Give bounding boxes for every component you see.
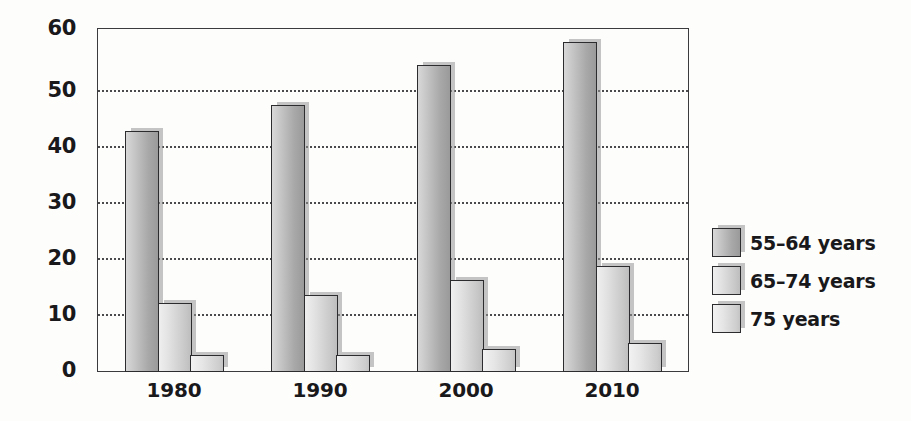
bar-2010-55-64	[563, 42, 597, 372]
legend-swatch-65-74-icon	[712, 266, 741, 295]
legend-item-75: 75 years	[712, 304, 876, 333]
legend-label-65-74: 65–74 years	[750, 270, 876, 292]
bar-2000-75	[482, 349, 516, 372]
bar-group-1980	[125, 28, 222, 372]
bar-2000-55-64	[417, 65, 451, 372]
bar-1980-55-64	[125, 131, 159, 372]
x-axis-tick-labels: 1980 1990 2000 2010	[97, 378, 689, 402]
bar-1990-55-64	[271, 105, 305, 372]
bar-2010-65-74	[596, 266, 630, 372]
bar-2010-75	[628, 343, 662, 372]
bar-group-2010	[563, 28, 660, 372]
y-tick-50: 50	[20, 80, 76, 101]
y-tick-10: 10	[20, 304, 76, 325]
chart-legend: 55–64 years 65–74 years 75 years	[712, 228, 876, 333]
y-axis-tick-labels: 60 50 40 30 20 10 0	[20, 0, 76, 421]
y-tick-40: 40	[20, 136, 76, 157]
legend-label-75: 75 years	[750, 308, 840, 330]
x-tick-1980: 1980	[119, 378, 229, 402]
x-tick-1990: 1990	[265, 378, 375, 402]
legend-item-55-64: 55–64 years	[712, 228, 876, 257]
y-tick-60: 60	[20, 18, 76, 39]
legend-item-65-74: 65–74 years	[712, 266, 876, 295]
bar-chart-figure: 60 50 40 30 20 10 0	[0, 0, 911, 421]
legend-label-55-64: 55–64 years	[750, 232, 876, 254]
legend-swatch-75-icon	[712, 304, 741, 333]
legend-swatch-55-64-icon	[712, 228, 741, 257]
bar-1990-65-74	[304, 295, 338, 372]
bar-1990-75	[336, 355, 370, 372]
x-tick-2010: 2010	[557, 378, 667, 402]
bar-2000-65-74	[450, 280, 484, 372]
bar-group-2000	[417, 28, 514, 372]
x-tick-2000: 2000	[411, 378, 521, 402]
y-tick-0: 0	[20, 360, 76, 381]
bar-group-1990	[271, 28, 368, 372]
y-tick-30: 30	[20, 192, 76, 213]
y-tick-20: 20	[20, 248, 76, 269]
bar-1980-65-74	[158, 303, 192, 372]
bar-1980-75	[190, 355, 224, 372]
